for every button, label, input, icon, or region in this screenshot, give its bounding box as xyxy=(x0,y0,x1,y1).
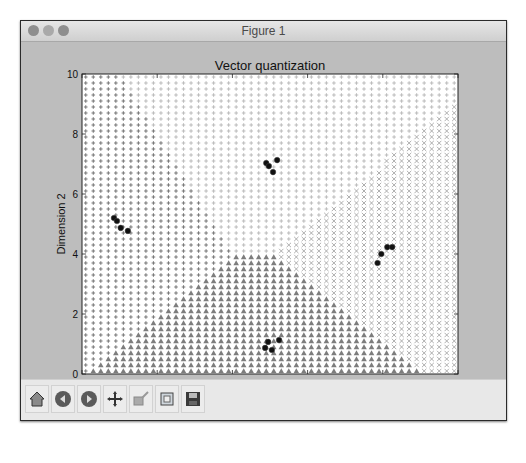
svg-text:6: 6 xyxy=(72,189,78,200)
forward-button[interactable] xyxy=(77,385,101,413)
svg-text:4: 4 xyxy=(72,249,78,260)
figure-window: Figure 1 Vector quantization 0246810 024… xyxy=(20,20,507,421)
chart-title: Vector quantization xyxy=(215,58,326,73)
figure-canvas[interactable]: Vector quantization 0246810 0246810 Dime… xyxy=(21,42,506,381)
pan-button[interactable] xyxy=(103,385,127,413)
subplots-button[interactable] xyxy=(155,385,179,413)
save-icon xyxy=(184,390,202,408)
back-button[interactable] xyxy=(51,385,75,413)
y-axis-label: Dimension 2 xyxy=(55,193,67,254)
zoom-rect-icon xyxy=(132,390,150,408)
home-icon xyxy=(28,390,46,408)
back-arrow-icon xyxy=(54,390,72,408)
save-button[interactable] xyxy=(181,385,205,413)
subplots-icon xyxy=(158,390,176,408)
move-icon xyxy=(106,390,124,408)
svg-text:8: 8 xyxy=(72,129,78,140)
zoom-button[interactable] xyxy=(129,385,153,413)
svg-text:10: 10 xyxy=(67,69,79,80)
forward-arrow-icon xyxy=(80,390,98,408)
svg-text:2: 2 xyxy=(72,309,78,320)
navigation-toolbar xyxy=(21,379,506,420)
home-button[interactable] xyxy=(25,385,49,413)
